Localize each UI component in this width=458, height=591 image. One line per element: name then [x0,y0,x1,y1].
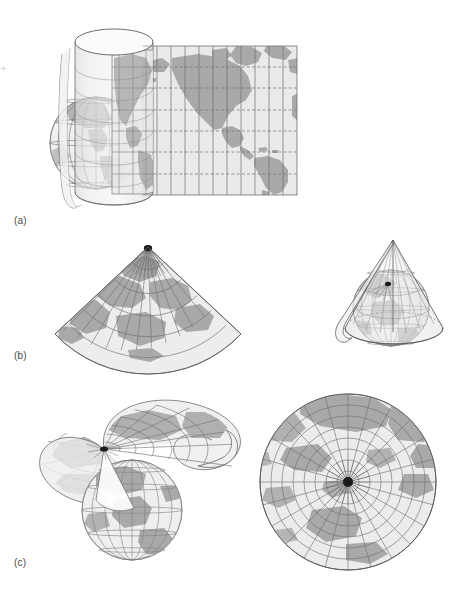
panel-c-planar-projection [0,382,458,582]
cylinder-top-rim [75,29,153,55]
unrolled-cone-map [20,245,241,374]
panel-label-a: (a) [14,215,27,226]
projection-figure: (a) (b) (c) [0,0,458,591]
panel-label-b: (b) [14,350,27,361]
azimuthal-pole-dot [343,477,353,487]
panel-a-cylindrical-projection [0,0,458,232]
flat-map-cylindrical [143,46,297,195]
cylinder-wrapped-map [112,50,156,194]
panel-label-c: (c) [14,557,26,568]
plane-over-globe [0,394,240,560]
flat-azimuthal-map [252,394,436,570]
cone-over-globe [336,240,443,346]
panel-b-conic-projection [0,232,458,382]
